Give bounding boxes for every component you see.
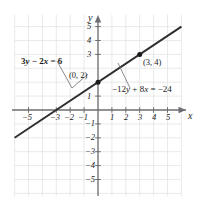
coordinate-plane-svg [0, 0, 204, 203]
x-axis-arrow [179, 107, 187, 113]
y-tick-label--2: −2 [85, 132, 95, 142]
eq-right-rhs: = −24 [148, 84, 172, 94]
point-3-4-marker [137, 52, 142, 57]
eq-right-op: + 8 [130, 84, 144, 94]
y-tick-label--3: −3 [85, 146, 95, 156]
y-tick-label-5: 5 [87, 21, 91, 31]
x-tick-label-5: 5 [166, 112, 170, 122]
y-tick-label--5: −5 [85, 174, 95, 184]
x-tick-label-2: 2 [124, 112, 128, 122]
y-tick-label--4: −4 [85, 160, 95, 170]
equation-label-right: −12y + 8x = −24 [112, 84, 172, 94]
point-label-3-4: (3, 4) [143, 57, 161, 67]
y-tick-label-1: 1 [87, 91, 91, 101]
eq-right-coef-a: −12 [112, 84, 126, 94]
x-tick-label-3: 3 [138, 112, 142, 122]
x-tick-label-4: 4 [152, 112, 156, 122]
eq-left-op: − 2 [30, 56, 44, 66]
point-0-2-marker [96, 80, 101, 85]
y-tick-label-4: 4 [87, 35, 91, 45]
y-tick-label-3: 3 [87, 49, 91, 59]
x-tick-label--5: −5 [22, 112, 32, 122]
graph-figure: 3y − 2x = 6 −12y + 8x = −24 (0, 2) (3, 4… [0, 0, 204, 203]
point-label-0-2: (0, 2) [69, 70, 87, 80]
y-tick-label--1: −1 [85, 118, 95, 128]
y-axis-arrow [95, 15, 101, 23]
equation-label-left: 3y − 2x = 6 [21, 56, 62, 66]
axis-lines [12, 17, 186, 196]
x-tick-label-1: 1 [110, 112, 114, 122]
x-tick-label--2: −2 [64, 112, 74, 122]
x-tick-label--3: −3 [50, 112, 60, 122]
x-axis-label: x [188, 110, 192, 121]
eq-left-rhs: = 6 [48, 56, 62, 66]
